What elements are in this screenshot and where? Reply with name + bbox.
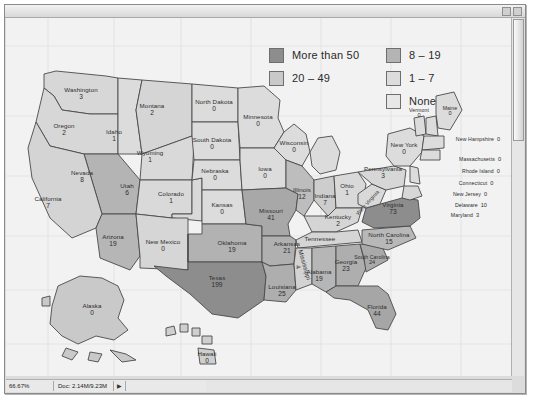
- legend-column-1: More than 50 20 – 49: [269, 46, 359, 92]
- map-legend: More than 50 20 – 49 8 – 19: [269, 46, 479, 116]
- legend-column-2: 8 – 19 1 – 7 None: [386, 46, 441, 115]
- legend-swatch: [386, 48, 401, 63]
- vertical-scrollbar[interactable]: [511, 18, 524, 376]
- status-bar: 66.67% Doc: 2.14M/9.23M ▶: [6, 380, 206, 392]
- legend-label: 20 – 49: [292, 72, 330, 84]
- legend-swatch: [269, 48, 284, 63]
- legend-label: More than 50: [292, 49, 359, 61]
- legend-item: More than 50: [269, 46, 359, 64]
- window-controls[interactable]: [502, 7, 522, 16]
- legend-swatch: [386, 71, 401, 86]
- legend-swatch: [269, 71, 284, 86]
- zoom-level[interactable]: 66.67%: [6, 381, 54, 391]
- legend-item: 20 – 49: [269, 69, 359, 87]
- window-title-bar[interactable]: [5, 5, 525, 18]
- document-size-info[interactable]: Doc: 2.14M/9.23M: [54, 381, 114, 391]
- photoshop-document-window: More than 50 20 – 49 8 – 19: [0, 0, 541, 410]
- maximize-box-icon[interactable]: [513, 7, 522, 16]
- legend-swatch: [386, 94, 401, 109]
- status-popup-arrow-icon[interactable]: ▶: [114, 381, 126, 391]
- legend-item: 1 – 7: [386, 69, 441, 87]
- us-choropleth-map: More than 50 20 – 49 8 – 19: [6, 18, 511, 376]
- legend-label: 8 – 19: [409, 49, 441, 61]
- legend-item: None: [386, 92, 441, 110]
- legend-label: None: [409, 95, 436, 107]
- minimize-box-icon[interactable]: [502, 7, 511, 16]
- vertical-scroll-thumb[interactable]: [513, 19, 524, 141]
- image-canvas[interactable]: More than 50 20 – 49 8 – 19: [6, 18, 511, 376]
- document-window-frame: More than 50 20 – 49 8 – 19: [4, 4, 526, 394]
- legend-item: 8 – 19: [386, 46, 441, 64]
- legend-label: 1 – 7: [409, 72, 434, 84]
